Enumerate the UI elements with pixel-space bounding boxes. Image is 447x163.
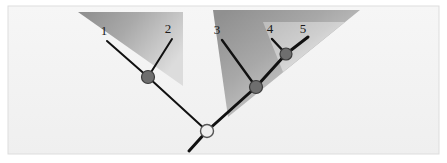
internal-node-b[interactable] (250, 81, 263, 94)
tip-label-2: 2 (165, 21, 172, 36)
tree-canvas: 1 2 3 4 5 (0, 0, 447, 163)
tip-label-3: 3 (214, 22, 221, 37)
tip-label-1: 1 (101, 23, 108, 38)
root-node[interactable] (201, 125, 214, 138)
tip-label-4: 4 (267, 21, 274, 36)
internal-node-a[interactable] (142, 71, 155, 84)
internal-node-c[interactable] (280, 48, 292, 60)
phylogenetic-tree-figure: 1 2 3 4 5 (0, 0, 447, 163)
tip-label-5: 5 (300, 21, 307, 36)
